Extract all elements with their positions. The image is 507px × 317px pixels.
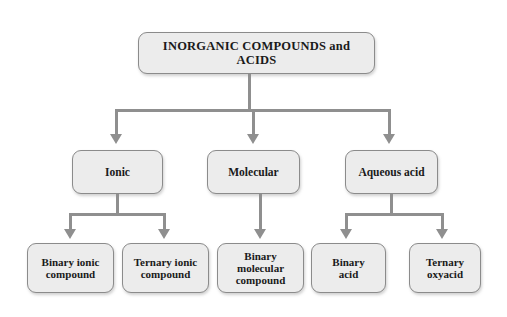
node-label: INORGANIC COMPOUNDS and ACIDS xyxy=(139,39,374,67)
connector-drop-binary-acid xyxy=(345,213,348,230)
node-label: Binary ionic compound xyxy=(34,256,108,281)
node-label-line2: oxyacid xyxy=(422,268,468,280)
node-label: Ternary oxyacid xyxy=(418,256,472,281)
node-label-line2: molecular xyxy=(232,262,290,274)
arrowhead-binary-acid xyxy=(340,229,352,239)
node-binary-ionic-compound[interactable]: Binary ionic compound xyxy=(27,243,114,293)
arrowhead-ionic xyxy=(110,134,122,144)
node-binary-molecular-compound[interactable]: Binary molecular compound xyxy=(217,243,304,293)
node-molecular[interactable]: Molecular xyxy=(207,150,300,194)
arrowhead-molecular xyxy=(247,134,259,144)
arrowhead-binary-molecular xyxy=(254,229,266,239)
node-label-line2: compound xyxy=(38,268,104,280)
node-label-line1: Ternary ionic xyxy=(130,256,201,268)
node-label-line1: Binary xyxy=(232,250,290,262)
connector-aqueous-bar xyxy=(345,213,444,216)
node-label-line1: Binary xyxy=(328,256,368,268)
arrowhead-ternary-oxyacid xyxy=(436,229,448,239)
node-ionic[interactable]: Ionic xyxy=(72,150,163,194)
arrowhead-ternary-ionic xyxy=(158,229,170,239)
node-label: Aqueous acid xyxy=(354,166,428,179)
node-label-line2: compound xyxy=(130,268,201,280)
arrowhead-aqueous-acid xyxy=(383,134,395,144)
inorganic-compounds-flowchart: INORGANIC COMPOUNDS and ACIDS Ionic Mole… xyxy=(0,0,507,317)
arrowhead-binary-ionic xyxy=(64,229,76,239)
node-inorganic-compounds-and-acids[interactable]: INORGANIC COMPOUNDS and ACIDS xyxy=(138,32,375,74)
node-label-line1: Ternary xyxy=(422,256,468,268)
connector-drop-ternary-ionic xyxy=(163,213,166,230)
node-label-line2: acid xyxy=(328,268,368,280)
connector-aqueous-stem xyxy=(390,194,393,214)
connector-ionic-stem xyxy=(116,194,119,214)
node-ternary-oxyacid[interactable]: Ternary oxyacid xyxy=(409,243,481,293)
connector-drop-aqueous-acid xyxy=(388,109,391,135)
node-label: Binary molecular compound xyxy=(228,250,294,287)
connector-drop-ionic xyxy=(115,109,118,135)
node-binary-acid[interactable]: Binary acid xyxy=(311,243,386,293)
node-label-line3: compound xyxy=(232,274,290,286)
node-label: Ternary ionic compound xyxy=(126,256,205,281)
connector-molecular-stem xyxy=(259,194,262,230)
connector-ionic-bar xyxy=(69,213,166,216)
node-ternary-ionic-compound[interactable]: Ternary ionic compound xyxy=(122,243,209,293)
node-label: Molecular xyxy=(224,166,282,179)
connector-drop-ternary-oxyacid xyxy=(441,213,444,230)
connector-root-stem xyxy=(248,74,251,111)
node-label: Binary acid xyxy=(324,256,372,281)
node-aqueous-acid[interactable]: Aqueous acid xyxy=(345,150,438,194)
connector-drop-binary-ionic xyxy=(69,213,72,230)
connector-drop-molecular xyxy=(252,109,255,135)
node-label: Ionic xyxy=(101,166,134,179)
node-label-line1: Binary ionic xyxy=(38,256,104,268)
